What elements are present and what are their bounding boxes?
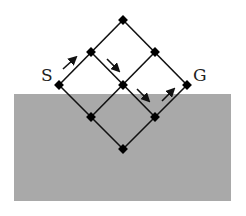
lattice-diagram: S G [0,0,246,216]
goal-label: G [193,65,207,85]
arrow-up-right-icon [63,59,74,69]
arrow-down-right-icon [107,59,117,69]
start-label: S [41,65,53,85]
